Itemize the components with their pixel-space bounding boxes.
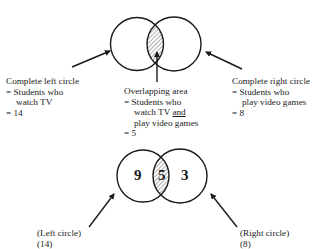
bottom-right-label-line1: (Right circle) (240, 228, 289, 239)
left-label-line3: watch TV (6, 97, 79, 108)
left-circle-label: Complete left circle = Students who watc… (6, 76, 79, 118)
overlap-label-line1: Overlapping area (124, 86, 198, 97)
right-label-line3: play video games (232, 97, 310, 108)
arrow-right-circle (206, 52, 242, 69)
overlap-label-line3: watch TV and (124, 107, 198, 118)
bottom-venn (89, 149, 237, 227)
left-label-line4: = 14 (6, 108, 79, 119)
left-label-line2: = Students who (6, 87, 79, 98)
overlap-label: Overlapping area = Students who watch TV… (124, 86, 198, 139)
left-label-line1: Complete left circle (6, 76, 79, 87)
arrow-bottom-left (89, 194, 114, 227)
right-label-line2: = Students who (232, 87, 310, 98)
overlap-label-line2: = Students who (124, 97, 198, 108)
right-circle-label: Complete right circle = Students who pla… (232, 76, 310, 118)
bottom-right-label-line2: (8) (240, 239, 289, 249)
bottom-right-label: (Right circle) (8) (240, 228, 289, 249)
right-only-count: 3 (181, 167, 189, 184)
arrow-bottom-right (211, 194, 237, 227)
overlap-label-line4: play video games (124, 118, 198, 129)
overlap-label-line5: = 5 (124, 128, 198, 139)
top-venn (72, 17, 242, 82)
bottom-left-label-line1: (Left circle) (37, 228, 81, 239)
bottom-left-label-line2: (14) (37, 239, 81, 249)
right-label-line4: = 8 (232, 108, 310, 119)
right-label-line1: Complete right circle (232, 76, 310, 87)
arrow-left-circle (72, 51, 110, 67)
bottom-left-label: (Left circle) (14) (37, 228, 81, 249)
left-only-count: 9 (134, 167, 142, 184)
overlap-label-line3a: watch TV (134, 107, 172, 117)
overlap-label-and: and (172, 107, 185, 117)
overlap-count: 5 (158, 167, 166, 184)
